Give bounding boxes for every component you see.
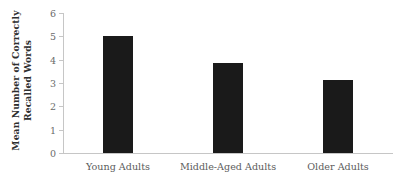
y-axis-line xyxy=(63,13,64,153)
x-axis-label: Young Adults xyxy=(86,161,150,172)
y-tick-mark xyxy=(59,13,63,14)
x-axis-label: Middle-Aged Adults xyxy=(180,161,276,172)
bar xyxy=(103,36,133,153)
y-tick-mark xyxy=(59,130,63,131)
bar xyxy=(323,80,353,154)
y-tick-mark xyxy=(59,153,63,154)
y-tick-label: 4 xyxy=(50,54,56,65)
y-tick-mark xyxy=(59,106,63,107)
y-tick-mark xyxy=(59,36,63,37)
x-axis-line xyxy=(63,153,393,154)
y-tick-label: 2 xyxy=(50,101,56,112)
y-tick-mark xyxy=(59,83,63,84)
y-tick-label: 6 xyxy=(50,8,56,19)
y-tick-label: 1 xyxy=(50,124,56,135)
plot-area: 0123456 Young AdultsMiddle-Aged AdultsOl… xyxy=(63,13,393,153)
y-tick-label: 5 xyxy=(50,31,56,42)
y-axis-title-line2: Recalled Words xyxy=(21,10,33,150)
bar xyxy=(213,63,243,153)
y-axis-title: Mean Number of Correctly Recalled Words xyxy=(0,0,42,160)
y-tick-mark xyxy=(59,60,63,61)
y-tick-label: 0 xyxy=(50,148,56,159)
x-axis-label: Older Adults xyxy=(307,161,368,172)
y-axis-title-line1: Mean Number of Correctly xyxy=(10,10,21,150)
y-tick-label: 3 xyxy=(50,78,56,89)
bar-chart: Mean Number of Correctly Recalled Words … xyxy=(0,0,405,183)
